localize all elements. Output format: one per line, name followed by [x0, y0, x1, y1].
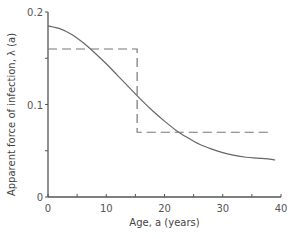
series	[48, 26, 275, 160]
force-of-infection-chart: 01020304000.10.2 Age, a (years) Apparent…	[0, 0, 290, 239]
step-dashed-line	[48, 49, 272, 132]
x-tick-label: 40	[275, 203, 288, 214]
y-tick-label: 0.2	[27, 7, 43, 18]
y-axis-label: Apparent force of infection, λ (a)	[6, 33, 17, 196]
x-axis-label: Age, a (years)	[129, 217, 199, 228]
x-tick-label: 20	[158, 203, 171, 214]
smooth-curve-line	[48, 26, 275, 160]
axes: 01020304000.10.2	[27, 7, 287, 214]
y-tick-label: 0.1	[27, 100, 43, 111]
y-tick-label: 0	[37, 192, 43, 203]
x-tick-label: 0	[45, 203, 51, 214]
x-tick-label: 10	[100, 203, 113, 214]
x-tick-label: 30	[216, 203, 229, 214]
